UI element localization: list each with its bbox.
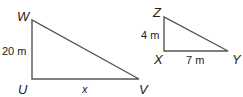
side-xy-length: 7 m <box>186 54 204 66</box>
triangle-zxy: Z X Y 4 m 7 m <box>141 5 242 67</box>
side-uv-length: x <box>81 83 88 95</box>
side-wu-length: 20 m <box>2 45 26 57</box>
vertex-w-label: W <box>17 9 31 24</box>
similar-triangles-diagram: W U V 20 m x Z X Y 4 m 7 m <box>0 0 243 97</box>
vertex-u-label: U <box>18 82 28 97</box>
triangle-wuv: W U V 20 m x <box>2 9 149 97</box>
side-zx-length: 4 m <box>141 29 159 41</box>
triangle-wuv-outline <box>32 20 139 79</box>
vertex-z-label: Z <box>152 5 162 20</box>
triangle-zxy-outline <box>164 17 228 51</box>
vertex-y-label: Y <box>232 52 242 67</box>
vertex-v-label: V <box>139 82 149 97</box>
vertex-x-label: X <box>153 52 164 67</box>
